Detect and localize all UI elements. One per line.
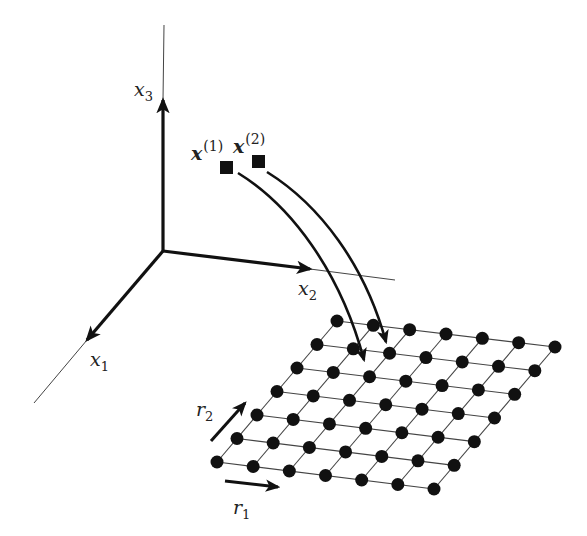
lattice-node [319,469,332,482]
lattice-node [211,456,224,469]
axis-x2-arrow [163,251,310,269]
axis-x1-arrow [87,251,163,340]
lattice-node [508,388,521,401]
lattice-node [271,385,284,398]
lattice-node [383,347,396,360]
lattice-axis-label-r1: r1 [233,496,250,522]
lattice-node [549,341,562,354]
lattice-node [331,315,344,328]
axis-label-x2: x2 [298,277,317,303]
lattice-node [440,328,453,341]
lattice-node [347,342,360,355]
input-vector-2-square [252,155,265,168]
input-vector-1-square [220,161,233,174]
lattice-node [411,454,424,467]
lattice-node [476,332,489,345]
lattice-node [355,474,368,487]
lattice-node [428,483,441,496]
lattice-node [251,409,264,422]
axis-x2-extension [310,269,395,280]
lattice-node [291,362,304,375]
lattice-node [303,441,316,454]
axis-label-x1: x1 [90,348,109,374]
diagram-canvas: x1x2x3x(1)x(2)r1r2 [0,0,587,536]
lattice-node [343,394,356,407]
lattice-node [512,336,525,349]
lattice-node [391,478,404,491]
lattice-node [359,422,372,435]
lattice-node [231,432,244,445]
lattice-node [456,355,469,368]
lattice-node [472,383,485,396]
lattice-node [452,407,465,420]
mapping-arrow-2 [267,172,386,342]
lattice-node [363,370,376,383]
som-diagram: x1x2x3x(1)x(2)r1r2 [0,0,587,536]
input-vector-2-label: x(2) [232,131,265,157]
lattice-node [436,379,449,392]
lattice-node [283,465,296,478]
input-vectors [220,155,386,360]
lattice-node [327,366,340,379]
lattice-node [247,460,260,473]
axis-label-x3: x3 [134,78,153,104]
lattice-node [395,426,408,439]
lattice-direction-r1-arrow [225,481,278,487]
lattice-node [339,445,352,458]
lattice-node [528,364,541,377]
lattice-node [367,319,380,332]
lattice-node [403,323,416,336]
lattice-node [419,351,432,364]
lattice-node [375,450,388,463]
lattice-node [492,360,505,373]
lattice-node [432,431,445,444]
axis-x1-extension [34,340,87,403]
lattice-node [488,412,501,425]
lattice-node [399,375,412,388]
axis-x3-extension [163,25,164,100]
lattice-node [323,417,336,430]
lattice-node [416,403,429,416]
lattice-node [287,413,300,426]
lattice-node [379,398,392,411]
lattice-node [448,459,461,472]
coordinate-axes [34,25,395,403]
lattice-axis-label-r2: r2 [196,398,213,424]
lattice-node [267,436,280,449]
lattice-node [311,338,324,351]
lattice-node [307,389,320,402]
axis-labels: x1x2x3x(1)x(2)r1r2 [90,78,317,522]
lattice-node [468,435,481,448]
input-vector-1-label: x(1) [190,138,223,164]
